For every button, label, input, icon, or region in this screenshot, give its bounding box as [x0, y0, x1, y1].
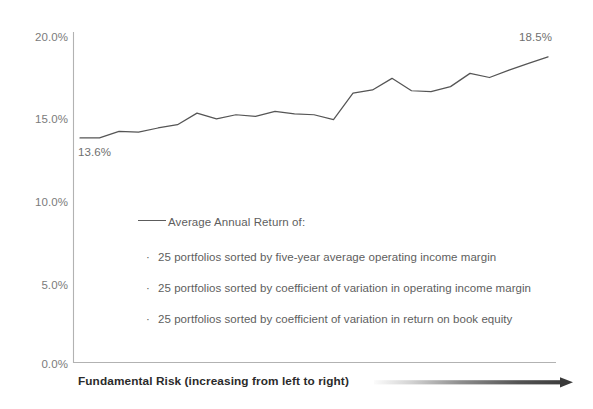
bullet-icon: · [146, 282, 150, 294]
legend-item-0: ·25 portfolios sorted by five-year avera… [138, 251, 568, 263]
plot-area [0, 0, 593, 409]
bullet-icon: · [146, 313, 150, 325]
bullet-icon: · [146, 251, 150, 263]
legend-item-2: ·25 portfolios sorted by coefficient of … [138, 313, 568, 325]
chart-legend: Average Annual Return of: ·25 portfolios… [138, 212, 568, 325]
return-series-line [80, 57, 548, 138]
legend-item-label: 25 portfolios sorted by coefficient of v… [158, 313, 512, 325]
risk-gradient-arrow [374, 377, 573, 387]
legend-header-row: Average Annual Return of: [138, 212, 568, 232]
x-axis-caption: Fundamental Risk (increasing from left t… [78, 374, 349, 388]
chart-container: 20.0% 15.0% 10.0% 5.0% 0.0% 13.6% [0, 0, 593, 409]
legend-item-label: 25 portfolios sorted by five-year averag… [158, 251, 496, 263]
legend-item-label: 25 portfolios sorted by coefficient of v… [158, 282, 531, 294]
legend-item-1: ·25 portfolios sorted by coefficient of … [138, 282, 568, 294]
start-value-label: 13.6% [78, 146, 111, 158]
end-value-label: 18.5% [519, 31, 552, 43]
legend-line-swatch [138, 220, 166, 221]
legend-header-label: Average Annual Return of: [168, 216, 305, 228]
